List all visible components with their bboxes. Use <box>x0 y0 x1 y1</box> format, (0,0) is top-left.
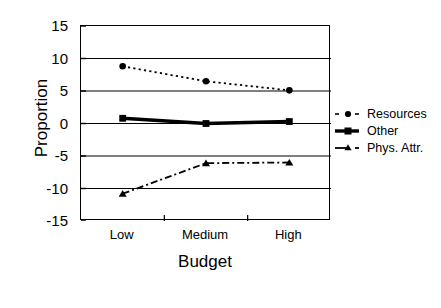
y-tick-label: 0 <box>22 115 74 130</box>
legend-label: Resources <box>367 108 427 121</box>
x-tick-marks <box>164 215 247 221</box>
y-tick-label: -5 <box>22 148 74 163</box>
data-point <box>119 63 126 70</box>
legend-label: Other <box>367 125 398 138</box>
x-tick-label: Low <box>110 228 134 241</box>
y-tick-label: 10 <box>22 50 74 65</box>
data-point <box>286 87 293 94</box>
y-tick-label: -10 <box>22 180 74 195</box>
series-other <box>119 115 292 127</box>
y-tick-label: -15 <box>22 213 74 228</box>
y-axis-tick-labels: 15 10 5 0 -5 -10 -15 <box>22 0 74 308</box>
y-tick-marks <box>81 26 86 221</box>
data-point <box>119 115 126 122</box>
y-tick-label: 15 <box>22 18 74 33</box>
chart-legend: Resources Other Phys. Attr. <box>334 106 438 157</box>
data-series-layer <box>119 63 294 197</box>
series-resources <box>119 63 292 94</box>
x-tick-label: High <box>275 228 302 241</box>
x-axis-title: Budget <box>80 252 330 272</box>
legend-item-resources: Resources <box>334 106 438 122</box>
legend-marker-triangle-icon <box>334 141 364 155</box>
plot-canvas <box>81 26 331 221</box>
data-point <box>203 78 210 85</box>
legend-marker-square-icon <box>334 124 364 138</box>
series-phys-attr <box>119 159 294 197</box>
x-tick-label: Medium <box>182 228 228 241</box>
legend-marker-circle-icon <box>334 107 364 121</box>
plot-area <box>80 25 330 220</box>
x-axis-tick-labels: Low Medium High <box>80 228 330 248</box>
data-point <box>203 120 210 127</box>
legend-label: Phys. Attr. <box>367 142 423 155</box>
y-tick-label: 5 <box>22 83 74 98</box>
legend-item-other: Other <box>334 123 438 139</box>
legend-item-phys-attr: Phys. Attr. <box>334 140 438 156</box>
chart-figure: Proportion 15 10 5 0 -5 -10 -15 Low Medi… <box>0 0 441 308</box>
data-point <box>286 118 293 125</box>
